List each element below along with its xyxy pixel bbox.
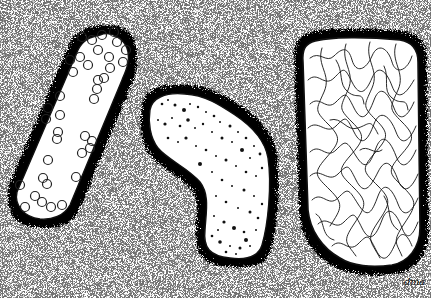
artist-signature: dma [404,276,424,287]
stipple-illustration [0,0,431,298]
filament-cell [303,38,420,267]
